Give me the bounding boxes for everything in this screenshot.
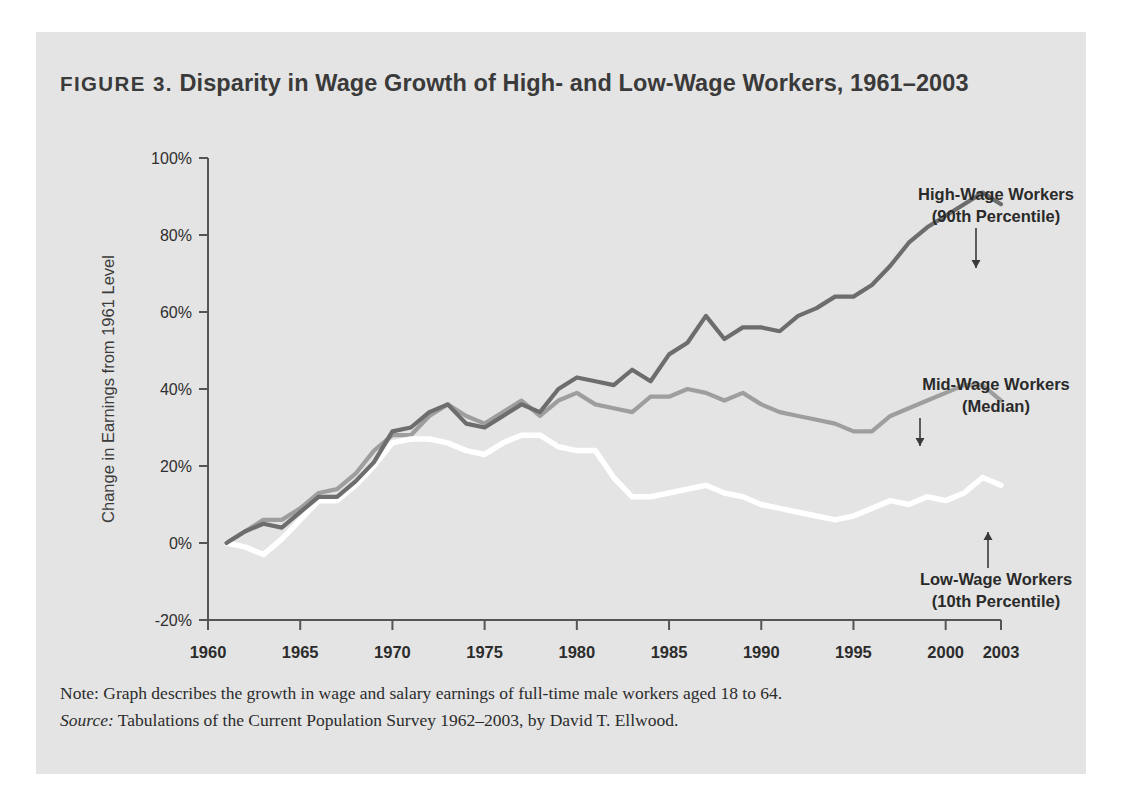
figure-footnotes: Note: Graph describes the growth in wage… bbox=[60, 680, 1070, 733]
x-tick-label: 1985 bbox=[651, 643, 688, 661]
y-axis-title: Change in Earnings from 1961 Level bbox=[99, 255, 117, 523]
x-tick-label: 2003 bbox=[983, 643, 1020, 661]
figure-panel: FIGURE 3. Disparity in Wage Growth of Hi… bbox=[36, 32, 1086, 774]
annotation-label-line1: High-Wage Workers bbox=[918, 185, 1074, 203]
annotation-label-line1: Low-Wage Workers bbox=[920, 570, 1072, 588]
x-tick-label: 1995 bbox=[835, 643, 872, 661]
chart-plot-area: -20%0%20%40%60%80%100%196019651970197519… bbox=[36, 32, 1086, 774]
y-tick-label: 100% bbox=[151, 150, 192, 167]
annotation-mid-wage: Mid-Wage Workers(Median) bbox=[916, 375, 1070, 446]
source-label: Source: bbox=[60, 710, 114, 730]
annotation-arrow-head bbox=[984, 532, 993, 540]
note-line: Note: Graph describes the growth in wage… bbox=[60, 680, 1070, 707]
annotation-low-wage: Low-Wage Workers(10th Percentile) bbox=[920, 532, 1072, 610]
y-tick-label: 0% bbox=[169, 535, 192, 552]
annotation-label-line2: (90th Percentile) bbox=[932, 207, 1060, 225]
line-chart-svg: -20%0%20%40%60%80%100%196019651970197519… bbox=[36, 32, 1086, 692]
y-tick-label: 40% bbox=[160, 381, 192, 398]
y-tick-label: -20% bbox=[155, 612, 192, 629]
x-tick-label: 1980 bbox=[558, 643, 595, 661]
y-tick-label: 20% bbox=[160, 458, 192, 475]
x-tick-label: 1965 bbox=[282, 643, 319, 661]
annotation-arrow-head bbox=[916, 438, 925, 446]
x-tick-label: 1990 bbox=[743, 643, 780, 661]
annotation-high-wage: High-Wage Workers(90th Percentile) bbox=[918, 185, 1074, 268]
annotation-label-line1: Mid-Wage Workers bbox=[922, 375, 1070, 393]
source-line: Source: Tabulations of the Current Popul… bbox=[60, 707, 1070, 734]
y-tick-label: 60% bbox=[160, 304, 192, 321]
series-line bbox=[226, 193, 1001, 543]
series-line bbox=[226, 385, 1001, 543]
x-tick-label: 1960 bbox=[190, 643, 227, 661]
x-tick-label: 1975 bbox=[466, 643, 503, 661]
y-tick-label: 80% bbox=[160, 227, 192, 244]
annotation-label-line2: (10th Percentile) bbox=[932, 592, 1060, 610]
annotation-arrow-head bbox=[972, 260, 981, 268]
x-tick-label: 2000 bbox=[927, 643, 964, 661]
source-text: Tabulations of the Current Population Su… bbox=[114, 710, 679, 730]
annotation-label-line2: (Median) bbox=[962, 397, 1030, 415]
x-tick-label: 1970 bbox=[374, 643, 411, 661]
